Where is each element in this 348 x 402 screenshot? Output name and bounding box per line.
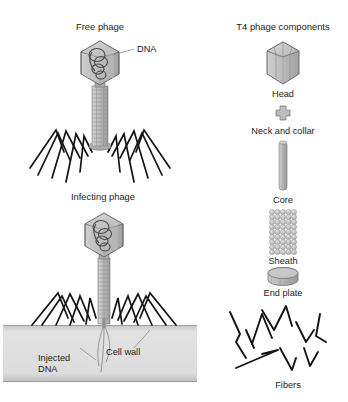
component-end-plate-icon <box>268 268 298 286</box>
injected-dna-label-line2: DNA <box>38 364 58 374</box>
component-label-fibers: Fibers <box>275 380 301 390</box>
components-title: T4 phage components <box>236 21 330 32</box>
infecting-phage-head <box>85 213 123 257</box>
component-label-core: Core <box>273 195 293 205</box>
component-sheath-icon <box>269 209 296 254</box>
infecting-phage-title: Infecting phage <box>71 191 135 202</box>
injected-dna-label-line1: Injected <box>38 353 70 363</box>
free-phage-head <box>81 41 119 85</box>
dna-label: DNA <box>137 44 157 54</box>
component-head-icon <box>267 42 299 84</box>
cell-wall <box>3 325 197 382</box>
free-phage-illustration: DNA <box>30 41 170 182</box>
t4-phage-diagram: Free phage Infecting phage T4 phage comp… <box>0 0 348 402</box>
free-phage-tail-sheath <box>92 86 108 146</box>
component-core-icon <box>279 141 287 190</box>
components-column: Head Neck and collar Core <box>230 42 326 390</box>
free-phage-title: Free phage <box>76 21 124 32</box>
infecting-phage-illustration: Injected DNA Cell wall <box>3 213 197 382</box>
component-label-head: Head <box>272 89 294 99</box>
component-label-neck-and-collar: Neck and collar <box>251 126 314 136</box>
component-fibers-icon <box>230 306 326 370</box>
component-label-end-plate: End plate <box>264 288 303 298</box>
cell-wall-label: Cell wall <box>106 347 140 357</box>
infecting-phage-tail <box>98 258 110 328</box>
component-label-sheath: Sheath <box>268 256 297 266</box>
component-neck-and-collar-icon <box>276 106 290 120</box>
